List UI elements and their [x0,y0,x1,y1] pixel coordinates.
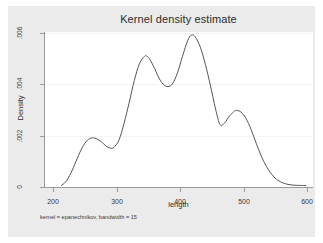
density-curve-path [61,35,305,186]
kernel-density-figure: Kernel density estimate .006 .004 .002 0… [0,0,323,243]
density-curve-svg [0,0,323,243]
